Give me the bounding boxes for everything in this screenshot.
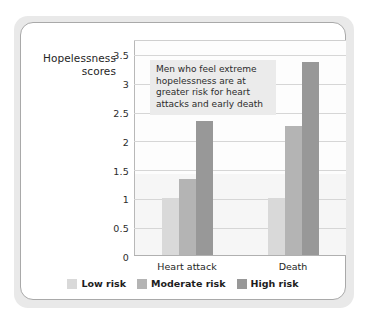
legend-item-moderate-risk: Moderate risk <box>137 278 226 289</box>
y-axis-tick-label: 2.5 <box>113 108 129 119</box>
y-axis-title: Hopelessness scores <box>24 52 116 77</box>
y-axis-line <box>134 41 135 256</box>
bar-high-risk-death <box>302 62 319 255</box>
legend-swatch-icon <box>67 279 77 289</box>
annotation-line-4: attacks and early death <box>156 99 271 111</box>
annotation-line-3: greater risk for heart <box>156 87 271 99</box>
legend-label: High risk <box>251 278 299 289</box>
legend-swatch-icon <box>237 279 247 289</box>
bar-low-risk-heart-attack <box>162 198 179 255</box>
legend-item-low-risk: Low risk <box>67 278 126 289</box>
y-axis-tick-label: 0 <box>123 252 129 263</box>
y-axis-tick-label: 3.5 <box>113 50 129 61</box>
y-axis-tick-label: 0.5 <box>113 223 129 234</box>
bar-moderate-risk-death <box>285 126 302 255</box>
x-axis-tick-label: Death <box>279 261 308 272</box>
y-axis-tick-label: 1.5 <box>113 165 129 176</box>
plot-wrapper: 00.511.522.533.5Heart attackDeath Men wh… <box>134 40 346 256</box>
gridline <box>134 55 346 56</box>
figure-root: Hopelessness scores 00.511.522.533.5Hear… <box>0 0 367 327</box>
bar-moderate-risk-heart-attack <box>179 179 196 255</box>
legend-swatch-icon <box>137 279 147 289</box>
x-axis-tick-label: Heart attack <box>157 261 216 272</box>
annotation-line-2: hopelessness are at <box>156 76 271 88</box>
annotation-line-1: Men who feel extreme <box>156 64 271 76</box>
chart-legend: Low riskModerate riskHigh risk <box>20 278 346 289</box>
bar-low-risk-death <box>268 198 285 255</box>
legend-item-high-risk: High risk <box>237 278 299 289</box>
y-axis-title-line-1: Hopelessness <box>24 52 116 65</box>
y-axis-title-line-2: scores <box>24 65 116 78</box>
x-axis-line <box>134 255 346 256</box>
annotation-callout: Men who feel extreme hopelessness are at… <box>150 60 276 115</box>
y-axis-tick-label: 1 <box>123 194 129 205</box>
y-axis-tick-label: 3 <box>123 79 129 90</box>
bar-high-risk-heart-attack <box>196 121 213 255</box>
y-axis-tick-label: 2 <box>123 136 129 147</box>
legend-label: Low risk <box>81 278 126 289</box>
legend-label: Moderate risk <box>151 278 226 289</box>
